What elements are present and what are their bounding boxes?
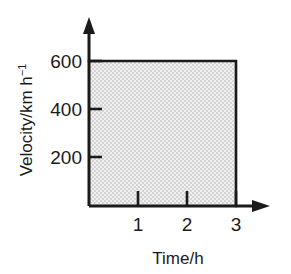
y-axis-title-text: Velocity/km h (17, 76, 36, 176)
y-tick-label-400: 400 (50, 99, 82, 120)
y-tick-label-200: 200 (50, 147, 82, 168)
x-axis-arrowhead-icon (252, 200, 270, 212)
x-tick-label-2: 2 (182, 214, 193, 235)
y-axis-arrowhead-icon (83, 17, 95, 34)
x-axis-title: Time/h (152, 249, 203, 268)
chart-canvas: 600 400 200 1 2 3 Velocity/km h−1 Time/h (0, 0, 291, 274)
svg-text:Velocity/km h−1: Velocity/km h−1 (16, 64, 36, 177)
velocity-time-chart: 600 400 200 1 2 3 Velocity/km h−1 Time/h (0, 0, 291, 274)
shaded-area-under-curve (89, 61, 236, 206)
y-axis-title-superscript: −1 (16, 64, 28, 77)
x-tick-label-1: 1 (133, 214, 144, 235)
y-tick-label-600: 600 (50, 51, 82, 72)
y-axis-title: Velocity/km h−1 (16, 64, 36, 177)
x-tick-label-3: 3 (231, 214, 242, 235)
